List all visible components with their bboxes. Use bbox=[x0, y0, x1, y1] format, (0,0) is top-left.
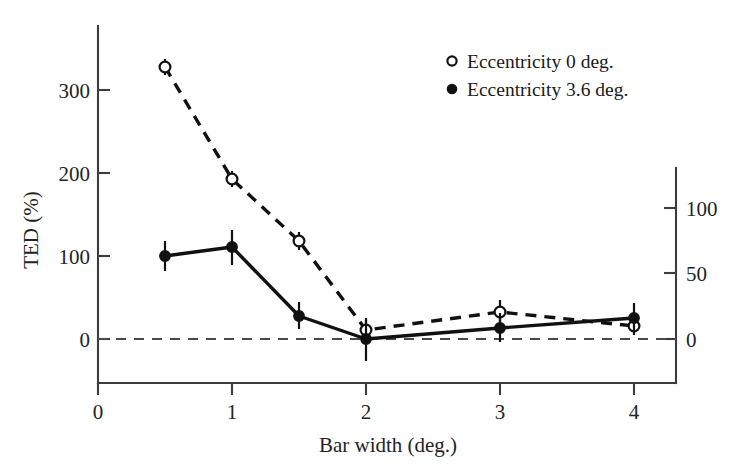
left-tick-label-200: 200 bbox=[59, 162, 91, 186]
series-0-markers bbox=[160, 62, 640, 336]
legend-marker-filled-circle-icon bbox=[447, 84, 456, 93]
right-axis-ticks: 100 50 0 bbox=[664, 197, 718, 352]
series-0-line bbox=[165, 67, 634, 330]
left-tick-label-300: 300 bbox=[59, 79, 91, 103]
data-point-filled-x3.0 bbox=[495, 323, 505, 333]
left-tick-label-100: 100 bbox=[59, 245, 91, 269]
data-point-filled-x0.5 bbox=[160, 251, 170, 261]
legend-marker-open-circle-icon bbox=[447, 56, 456, 65]
x-tick-label-2: 2 bbox=[361, 400, 372, 424]
x-axis-ticks: 0 1 2 3 4 bbox=[93, 383, 640, 424]
data-point-open-x1.5 bbox=[294, 236, 305, 247]
data-point-filled-x2.0 bbox=[361, 334, 371, 344]
right-tick-label-100: 100 bbox=[686, 197, 718, 221]
series-eccentricity-0 bbox=[160, 59, 640, 340]
x-tick-label-4: 4 bbox=[629, 400, 640, 424]
chart-canvas: 300 200 100 0 100 50 0 0 1 2 3 4 bbox=[0, 0, 735, 464]
left-axis-ticks: 300 200 100 0 bbox=[59, 79, 111, 352]
right-tick-label-0: 0 bbox=[686, 328, 697, 352]
series-0-errorbars bbox=[165, 59, 634, 340]
data-point-filled-x1.0 bbox=[227, 242, 237, 252]
legend-label-eccentricity-0: Eccentricity 0 deg. bbox=[467, 51, 614, 72]
left-tick-label-0: 0 bbox=[80, 328, 91, 352]
legend-label-eccentricity-3-6: Eccentricity 3.6 deg. bbox=[467, 79, 628, 100]
series-eccentricity-3-6 bbox=[160, 230, 639, 361]
legend: Eccentricity 0 deg. Eccentricity 3.6 deg… bbox=[447, 51, 628, 100]
data-point-open-x0.5 bbox=[160, 62, 171, 73]
figure-chart-ted-vs-bar-width: 300 200 100 0 100 50 0 0 1 2 3 4 bbox=[0, 0, 735, 464]
data-point-filled-x1.5 bbox=[294, 311, 304, 321]
right-tick-label-50: 50 bbox=[686, 262, 707, 286]
x-tick-label-0: 0 bbox=[93, 400, 104, 424]
x-tick-label-3: 3 bbox=[495, 400, 506, 424]
data-point-open-x1.0 bbox=[227, 174, 238, 185]
x-axis-title: Bar width (deg.) bbox=[319, 433, 457, 457]
data-point-filled-x4.0 bbox=[629, 313, 639, 323]
y-axis-title: TED (%) bbox=[19, 191, 43, 269]
x-tick-label-1: 1 bbox=[227, 400, 238, 424]
